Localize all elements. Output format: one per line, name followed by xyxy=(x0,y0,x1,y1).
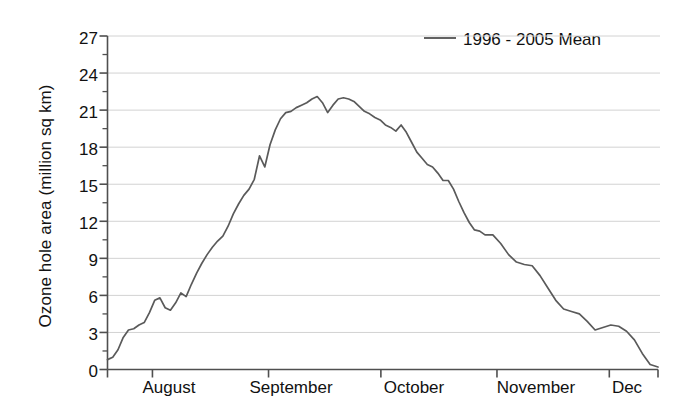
series-line-1996-2005-mean xyxy=(108,97,659,368)
x-axis-ticks xyxy=(108,370,659,378)
plot-canvas xyxy=(0,0,681,417)
ozone-hole-area-chart: Ozone hole area (million sq km) 27 24 21… xyxy=(0,0,681,417)
